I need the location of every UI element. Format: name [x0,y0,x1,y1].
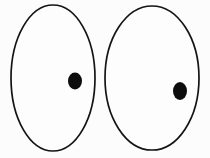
left-dot [68,73,82,90]
left-oval [11,5,95,151]
figure-svg [0,0,210,158]
right-dot [173,82,187,100]
figure-canvas: Two ovals each containing a filled dot [0,0,210,158]
right-oval [105,6,199,150]
